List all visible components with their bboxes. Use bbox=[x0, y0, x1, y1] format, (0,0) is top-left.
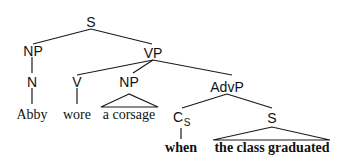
node-subject-np: NP bbox=[23, 43, 42, 59]
node-root-s: S bbox=[86, 14, 95, 30]
triangle-np-a-corsage bbox=[101, 94, 158, 107]
node-cs-subscript: S bbox=[184, 117, 191, 128]
leaf-wore: wore bbox=[63, 107, 91, 122]
triangle-s-the-class-graduated bbox=[213, 127, 330, 140]
leaf-the-class-graduated: the class graduated bbox=[214, 140, 329, 155]
leaf-abby: Abby bbox=[16, 107, 47, 122]
node-cs-label: C bbox=[173, 109, 183, 125]
node-v: V bbox=[72, 74, 82, 90]
node-cs: C S bbox=[173, 109, 191, 128]
syntax-tree-diagram: S NP VP N V NP AdvP C S S Abby wore a co… bbox=[0, 0, 348, 166]
node-embedded-s: S bbox=[267, 110, 276, 126]
node-object-np: NP bbox=[119, 74, 138, 90]
edge-vp-advp bbox=[153, 60, 232, 75]
leaf-a-corsage: a corsage bbox=[103, 107, 155, 122]
node-advp: AdvP bbox=[210, 79, 243, 95]
node-n: N bbox=[27, 74, 37, 90]
edge-advp-s bbox=[227, 94, 272, 108]
edge-s-np bbox=[33, 29, 91, 44]
leaf-when: when bbox=[165, 140, 197, 155]
edge-advp-cs bbox=[182, 94, 227, 108]
node-vp: VP bbox=[144, 45, 163, 61]
edge-s-vp bbox=[91, 29, 152, 44]
